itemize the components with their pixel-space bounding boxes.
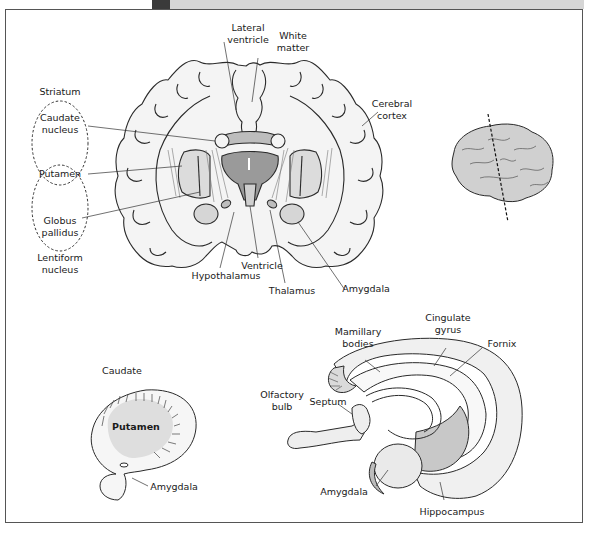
inset-lateral-brain: [452, 114, 553, 222]
label-caudate-nucleus: Caudate nucleus: [32, 112, 88, 136]
label-white-matter: White matter: [268, 30, 318, 54]
label-amygdala-basal: Amygdala: [144, 481, 204, 493]
label-septum: Septum: [304, 396, 352, 408]
label-cerebral-cortex: Cerebral cortex: [364, 98, 420, 122]
label-ventricle: Ventricle: [234, 260, 290, 272]
label-globus-pallidus: Globus pallidus: [32, 215, 88, 239]
label-fornix: Fornix: [480, 338, 524, 350]
coronal-brain-section: [115, 61, 383, 268]
label-hippocampus: Hippocampus: [414, 506, 490, 518]
label-caudate: Caudate: [92, 365, 152, 377]
label-amygdala-coronal: Amygdala: [336, 283, 396, 295]
limbic-system-illustration: [288, 338, 523, 498]
label-thalamus: Thalamus: [264, 285, 320, 297]
label-amygdala-limbic: Amygdala: [314, 486, 374, 498]
label-cingulate-gyrus: Cingulate gyrus: [418, 312, 478, 336]
label-striatum: Striatum: [30, 86, 90, 98]
label-lentiform-nucleus: Lentiform nucleus: [28, 252, 92, 276]
label-olfactory-bulb: Olfactory bulb: [254, 389, 310, 413]
label-mamillary-bodies: Mamillary bodies: [330, 326, 386, 350]
label-putamen-3d: Putamen: [106, 421, 166, 433]
label-putamen: Putamen: [32, 168, 88, 180]
